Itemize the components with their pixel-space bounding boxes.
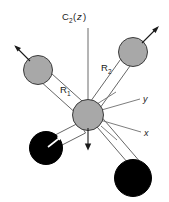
r2-label-subscript: 2 [108, 68, 112, 75]
c2-label-axis-letter: z [76, 11, 82, 22]
y-axis-label: y [142, 94, 148, 104]
r1-label-base: R [60, 84, 67, 95]
upper-left-atom [24, 56, 53, 85]
central-displacement-arrow [85, 128, 91, 151]
x-axis-label: x [143, 128, 149, 138]
r2-label-base: R [101, 62, 108, 73]
c2-label-paren-close: ) [83, 11, 86, 22]
central-atom [73, 100, 104, 131]
upper-right-displacement-arrow [142, 26, 159, 43]
bond-label-r2: R 2 [101, 62, 112, 75]
upper-left-displacement-arrow [14, 45, 30, 61]
lower-left-atom [30, 132, 63, 165]
molecular-symmetry-figure: C 2 ( z ) R 1 R 2 y x [0, 0, 169, 202]
r1-label-subscript: 1 [67, 90, 71, 97]
molecule-diagram: C 2 ( z ) R 1 R 2 y x [0, 0, 169, 202]
c2-axis-label: C 2 ( z ) [62, 11, 86, 24]
c2-label-base: C [62, 11, 69, 22]
lower-right-atom [115, 160, 152, 197]
